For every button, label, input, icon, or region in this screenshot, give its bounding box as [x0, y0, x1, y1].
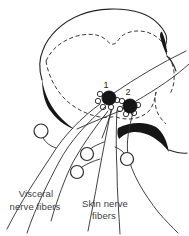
axon-from-neuron-2 — [136, 64, 189, 101]
neuron-1-label: 1 — [103, 80, 108, 90]
dashed-dorsal-horn-right — [155, 92, 166, 124]
ganglion-cell — [121, 153, 134, 166]
neuron-1-soma — [102, 91, 116, 105]
dashed-top-contour — [46, 31, 167, 61]
ganglion-cell — [71, 166, 84, 179]
ganglion-stem — [90, 142, 104, 149]
visceral-fibers-label: Visceral nerve fibers — [10, 188, 61, 212]
ganglion-stem — [43, 138, 56, 148]
neuron-2-label: 2 — [125, 87, 130, 97]
right-crescent-tract — [117, 123, 169, 152]
neuron-2-soma — [123, 99, 137, 113]
ganglion-cell — [34, 124, 48, 138]
skin-label-line2: fibers — [92, 210, 116, 221]
cord-outline — [40, 9, 187, 153]
ventral-right-surface — [169, 150, 187, 153]
skin-fibers-label: Skin nerve fibers — [82, 198, 128, 221]
crossing-fiber-line — [77, 111, 120, 129]
spinal-cord-diagram: 1 2 Visceral nerve fibers Skin nerve fib… — [0, 0, 189, 236]
diagram-canvas: 1 2 Visceral nerve fibers Skin nerve fib… — [0, 0, 189, 236]
skin-label-line1: Skin nerve — [82, 198, 128, 209]
left-crescent-tract — [42, 79, 74, 129]
crossing-fiber-line — [102, 110, 112, 138]
gray-matter-dashed-outline — [46, 31, 174, 124]
visceral-label-line1: Visceral — [19, 188, 53, 199]
visceral-label-line2: nerve fibers — [10, 201, 61, 212]
bouton-loop — [95, 98, 100, 103]
ganglion-cell — [81, 148, 94, 161]
